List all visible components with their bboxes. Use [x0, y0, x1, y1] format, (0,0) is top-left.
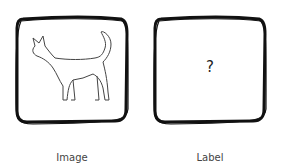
image-caption: Image	[13, 152, 131, 163]
image-panel: Image	[13, 14, 131, 126]
dog-icon	[13, 14, 131, 126]
label-panel: ? Label	[151, 14, 269, 126]
label-caption: Label	[151, 152, 269, 163]
unknown-label-mark: ?	[151, 58, 269, 76]
